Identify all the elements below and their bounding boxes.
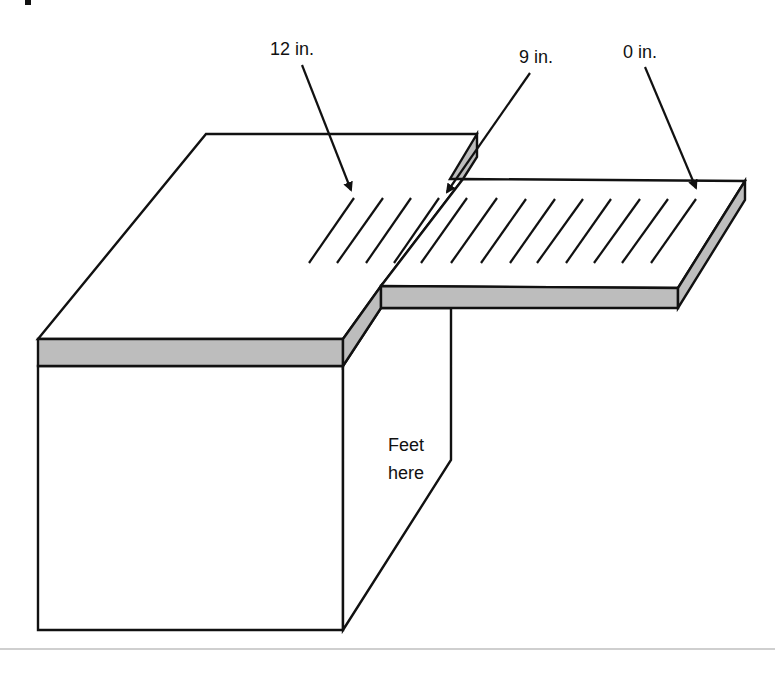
corner-mark — [25, 0, 31, 5]
label-feet: Feet — [388, 435, 424, 455]
box-front-face — [38, 366, 343, 630]
label-0-in: 0 in. — [623, 42, 657, 62]
label-12-in: 12 in. — [270, 39, 314, 59]
ruler-front-edge — [381, 286, 678, 308]
arrow-0-in — [645, 67, 696, 188]
label-here: here — [388, 463, 424, 483]
box-top-front-edge — [38, 339, 343, 366]
label-9-in: 9 in. — [519, 47, 553, 67]
arrow-9-in — [447, 73, 530, 192]
sit-and-reach-diagram: 12 in. 9 in. 0 in. Feet here — [0, 0, 775, 675]
